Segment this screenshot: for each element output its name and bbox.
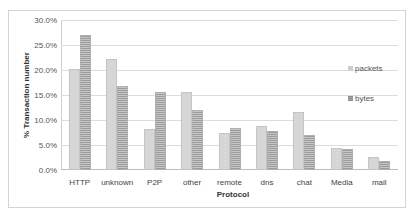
x-tick-label: chat <box>297 178 312 187</box>
bar-bytes-chat <box>304 135 315 170</box>
x-tick-label: other <box>183 178 201 187</box>
bar-packets-remote <box>219 133 230 170</box>
legend-label-packets: packets <box>355 64 383 73</box>
x-tick-label: Media <box>331 178 353 187</box>
bar-packets-chat <box>293 112 304 170</box>
bar-bytes-p2p <box>155 92 166 170</box>
gridline <box>61 20 398 21</box>
y-tick-label: 20.0% <box>17 66 57 75</box>
legend-swatch-bytes <box>348 96 353 101</box>
bar-packets-media <box>331 148 342 170</box>
bar-bytes-unknown <box>117 86 128 170</box>
bar-bytes-dns <box>267 131 278 170</box>
x-tick-label: mail <box>372 178 387 187</box>
bar-bytes-mail <box>379 161 390 170</box>
legend-label-bytes: bytes <box>355 94 374 103</box>
bar-packets-mail <box>368 157 379 170</box>
bar-bytes-other <box>192 110 203 170</box>
y-tick-label: 30.0% <box>17 16 57 25</box>
x-tick-label: dns <box>260 178 273 187</box>
x-tick-label: P2P <box>147 178 162 187</box>
bar-packets-unknown <box>106 59 117 170</box>
bar-bytes-media <box>342 149 353 170</box>
y-tick-label: 0.0% <box>17 166 57 175</box>
y-tick-label: 10.0% <box>17 116 57 125</box>
gridline <box>61 45 398 46</box>
bar-bytes-http <box>80 35 91 170</box>
bar-packets-dns <box>256 126 267 170</box>
bar-packets-http <box>69 69 80 170</box>
legend-swatch-packets <box>348 66 353 71</box>
x-tick-label: remote <box>217 178 242 187</box>
y-tick-label: 15.0% <box>17 91 57 100</box>
bar-bytes-remote <box>230 128 241 170</box>
y-tick-label: 25.0% <box>17 41 57 50</box>
y-tick-label: 5.0% <box>17 141 57 150</box>
bar-packets-other <box>181 92 192 170</box>
bar-packets-p2p <box>144 129 155 170</box>
legend-item-bytes: bytes <box>348 94 374 103</box>
x-tick-label: unknown <box>101 178 133 187</box>
x-tick-label: HTTP <box>69 178 90 187</box>
x-axis-title: Protocol <box>217 190 249 199</box>
legend-item-packets: packets <box>348 64 383 73</box>
